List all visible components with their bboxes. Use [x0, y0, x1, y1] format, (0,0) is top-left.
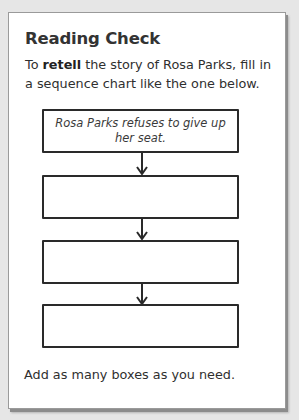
sequence-chart: Rosa Parks refuses to give up her seat.	[9, 13, 285, 408]
sequence-box-2[interactable]	[42, 175, 239, 219]
reading-check-card: Reading Check To retell the story of Ros…	[8, 12, 286, 409]
sequence-box-3[interactable]	[42, 240, 239, 284]
arrow-down-icon	[136, 218, 148, 240]
footer-note: Add as many boxes as you need.	[24, 367, 235, 382]
sequence-box-text: Rosa Parks refuses to give up her seat.	[44, 116, 237, 146]
sequence-box-4[interactable]	[42, 304, 239, 348]
arrow-down-icon	[136, 283, 148, 305]
arrow-down-icon	[136, 153, 148, 175]
sequence-box-1: Rosa Parks refuses to give up her seat.	[42, 109, 239, 153]
